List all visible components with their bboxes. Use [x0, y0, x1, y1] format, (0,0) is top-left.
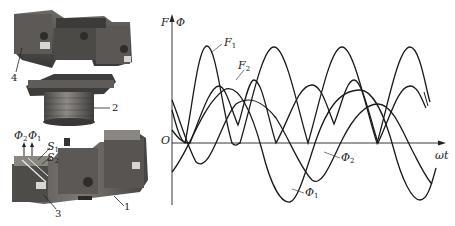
part-label-4: 4: [11, 73, 17, 83]
y-axis-arrow-icon: [170, 14, 175, 22]
flux-label-phi1: Φ1: [28, 130, 42, 143]
curve-F2: [172, 80, 426, 143]
curve-F1: [172, 46, 430, 145]
flux-label-phi2: Φ2: [14, 130, 28, 143]
x-axis-arrow-icon: [438, 141, 446, 146]
y-axis-label-phi: Φ: [176, 17, 185, 28]
coil-part-2: [26, 74, 116, 126]
curve-label-F1: F1: [224, 37, 236, 50]
x-axis-label: ωt: [435, 150, 448, 161]
curve-label-Phi1: Φ1: [305, 187, 319, 200]
curve-label-F2: F2: [238, 60, 250, 73]
curve-Phi1: [172, 89, 436, 202]
device-illustration: [0, 0, 160, 226]
section-label-s2: S2: [47, 152, 59, 165]
part-label-1: 1: [124, 202, 130, 212]
part-label-2: 2: [112, 103, 118, 113]
origin-label: O: [161, 135, 170, 146]
curve-Phi2: [172, 100, 432, 184]
armature-part-4: [14, 10, 132, 72]
figure: 4 2 1 3 Φ2 Φ1 S1 S2 F Φ: [0, 0, 455, 226]
curve-label-Phi2: Φ2: [341, 152, 355, 165]
part-label-3: 3: [55, 209, 61, 219]
y-axis-label-f: F: [161, 17, 169, 28]
